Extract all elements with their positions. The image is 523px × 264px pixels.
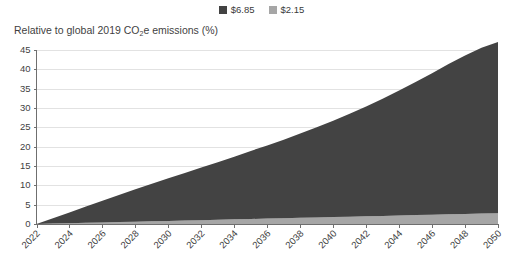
y-tick-label: 30 <box>20 102 31 113</box>
x-tick-label: 2040 <box>316 228 339 251</box>
x-tick-label: 2024 <box>52 228 75 251</box>
x-tick-label: 2048 <box>448 228 471 251</box>
x-tick-label: 2034 <box>217 228 240 251</box>
y-tick-label: 40 <box>20 63 31 74</box>
y-tick-label: 5 <box>25 199 30 210</box>
y-tick-label: 15 <box>20 160 31 171</box>
x-tick-label: 2022 <box>19 228 42 251</box>
x-tick-label: 2036 <box>250 228 273 251</box>
y-tick-label: 35 <box>20 83 31 94</box>
x-tick-label: 2042 <box>349 228 372 251</box>
y-tick-label: 0 <box>25 218 30 229</box>
x-tick-label: 2030 <box>151 228 174 251</box>
x-tick-label: 2038 <box>283 228 306 251</box>
x-tick-label: 2044 <box>382 228 405 251</box>
x-tick-label: 2028 <box>118 228 141 251</box>
chart-container: $6.85 $2.15 Relative to global 2019 CO2e… <box>0 0 523 264</box>
plot-area: 051015202530354045 202220242026202820302… <box>0 0 523 264</box>
x-axis-ticks: 2022202420262028203020322034203620382040… <box>19 224 503 250</box>
y-tick-label: 25 <box>20 121 31 132</box>
x-tick-label: 2032 <box>184 228 207 251</box>
y-axis-ticks: 051015202530354045 <box>20 44 37 229</box>
x-tick-label: 2046 <box>415 228 438 251</box>
x-tick-label: 2026 <box>85 228 108 251</box>
x-tick-label: 2050 <box>481 228 504 251</box>
y-tick-label: 10 <box>20 179 31 190</box>
y-tick-label: 20 <box>20 141 31 152</box>
chart-svg: 051015202530354045 202220242026202820302… <box>0 0 523 264</box>
y-tick-label: 45 <box>20 44 31 55</box>
